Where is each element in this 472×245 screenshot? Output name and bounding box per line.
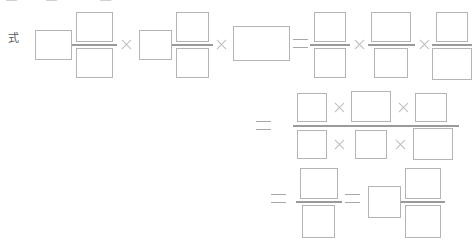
answer-box-whole[interactable]: [139, 30, 172, 60]
answer-box-denominator-factor-3[interactable]: [413, 128, 453, 160]
fraction-bar-long: [293, 125, 459, 127]
multiply-icon: [393, 138, 406, 151]
answer-box-numerator[interactable]: [176, 12, 209, 42]
line1-term3-answer-box[interactable]: [233, 26, 290, 61]
clipped-top-text: — 一 — 一一 —一: [0, 0, 466, 6]
answer-box-denominator[interactable]: [432, 48, 472, 80]
fraction-bar: [72, 44, 117, 46]
answer-box-whole[interactable]: [368, 186, 401, 218]
answer-box-denominator[interactable]: [302, 205, 335, 238]
answer-box-numerator[interactable]: [76, 12, 113, 42]
fraction-bar: [172, 44, 213, 46]
answer-box-whole[interactable]: [35, 30, 72, 60]
answer-box-numerator[interactable]: [314, 12, 346, 42]
multiply-icon: [396, 101, 409, 114]
fraction-bar: [432, 44, 472, 46]
multiply-icon: [417, 38, 430, 51]
fraction-bar: [310, 44, 350, 46]
answer-box-numerator-factor-1[interactable]: [297, 93, 327, 122]
answer-box-denominator[interactable]: [405, 205, 441, 238]
clipped-top-text-content: — 一 — 一一 —一: [6, 0, 128, 5]
answer-box-denominator-factor-2[interactable]: [355, 130, 387, 159]
formula-row-label: 式: [8, 32, 19, 45]
fraction-bar: [401, 201, 445, 203]
equals-icon: [345, 194, 360, 203]
equals-icon: [271, 194, 286, 203]
multiply-icon: [332, 101, 345, 114]
answer-box-numerator[interactable]: [436, 12, 468, 42]
multiply-icon: [119, 38, 132, 51]
answer-box-numerator[interactable]: [300, 168, 338, 199]
multiply-icon: [214, 38, 227, 51]
answer-box-denominator[interactable]: [314, 48, 346, 78]
fraction-bar: [296, 201, 342, 203]
multiply-icon: [352, 38, 365, 51]
answer-box-denominator-factor-1[interactable]: [297, 130, 327, 159]
answer-box-numerator-factor-2[interactable]: [351, 91, 391, 122]
equals-icon: [256, 121, 271, 130]
answer-box-numerator[interactable]: [405, 168, 441, 199]
equals-icon: [293, 39, 308, 48]
answer-box-denominator[interactable]: [374, 48, 408, 78]
multiply-icon: [332, 138, 345, 151]
fraction-bar: [368, 44, 415, 46]
answer-box-denominator[interactable]: [176, 48, 209, 78]
answer-box-denominator[interactable]: [76, 48, 113, 78]
answer-box-numerator-factor-3[interactable]: [415, 93, 447, 122]
answer-box-numerator[interactable]: [371, 12, 411, 42]
